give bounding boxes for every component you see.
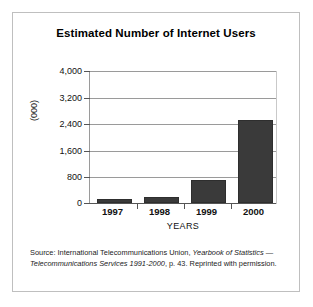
y-tick-mark (84, 203, 90, 204)
bar-1999[interactable] (191, 180, 226, 203)
y-tick-label: 1,600 (59, 146, 82, 156)
y-tick-label: 0 (77, 198, 82, 208)
bar-slot (91, 71, 138, 203)
y-tick-mark (84, 177, 90, 178)
bar-slot (185, 71, 232, 203)
caption-publication-title: Yearbook of Statistics (193, 248, 264, 257)
x-tick-label-1997: 1997 (89, 206, 136, 217)
chart-title: Estimated Number of Internet Users (13, 27, 299, 39)
y-axis-title: (000) (29, 100, 39, 121)
y-tick-label: 3,200 (59, 93, 82, 103)
y-tick-mark (84, 71, 90, 72)
caption-separator: — (264, 248, 273, 257)
caption-publication-subtitle: Telecommunications Services 1991-2000 (30, 259, 165, 268)
y-tick-mark (84, 151, 90, 152)
figure-frame: Estimated Number of Internet Users (000)… (12, 12, 300, 292)
y-tick-label: 2,400 (59, 119, 82, 129)
x-axis-labels: 1997199819992000 (89, 206, 277, 220)
y-tick-mark (84, 124, 90, 125)
bar-slot (138, 71, 185, 203)
bar-1998[interactable] (144, 197, 179, 203)
x-tick-label-1998: 1998 (136, 206, 183, 217)
source-caption: Source: International Telecommunications… (30, 247, 288, 270)
y-tick-label: 4,000 (59, 66, 82, 76)
caption-source-prefix: Source: International Telecommunications… (30, 248, 193, 257)
x-axis-title: YEARS (89, 221, 277, 231)
x-tick-label-2000: 2000 (230, 206, 277, 217)
bar-slot (232, 71, 279, 203)
gridline: 0 (90, 203, 276, 204)
y-tick-mark (84, 98, 90, 99)
bar-1997[interactable] (97, 199, 132, 203)
y-tick-label: 800 (67, 172, 82, 182)
bar-2000[interactable] (238, 120, 273, 203)
caption-permission-note: , p. 43. Reprinted with permission. (165, 259, 277, 268)
x-tick-label-1999: 1999 (183, 206, 230, 217)
bars-group (91, 71, 275, 203)
plot-area: 08001,6002,4003,2004,000 (89, 71, 277, 204)
